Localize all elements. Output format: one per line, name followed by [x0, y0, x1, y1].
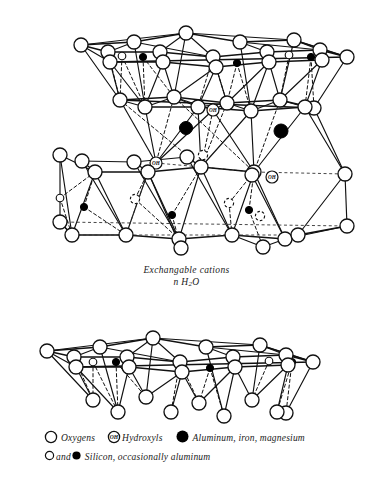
silicon-filled-circle-icon [71, 450, 82, 463]
upper-2to1-layer: OH OH OH [53, 26, 354, 255]
legend-label-silicon: Silicon, occasionally aluminum [85, 452, 211, 462]
hydroxyl-label: OH [209, 107, 218, 113]
legend-row: Oxygens OH Hydroxyls Aluminum, iron, mag… [44, 428, 373, 447]
hydroxyl-label: OH [268, 174, 277, 180]
hydroxyl-label: OH [152, 160, 161, 166]
oxygen-atoms-lower [40, 331, 320, 423]
interlayer-water-label: n H2O [0, 276, 373, 290]
hydroxyl-marker: OH [266, 171, 278, 183]
hydroxyl-icon-text: OH [110, 434, 119, 440]
legend-label-oxygens: Oxygens [61, 433, 95, 443]
hydroxyl-circle-icon: OH [107, 430, 121, 446]
interlayer-cations-label: Exchangable cations [0, 264, 373, 276]
figure-canvas: .ln{stroke:#111;stroke-width:1.15;fill:n… [0, 0, 373, 480]
lower-tetrahedral-sheet [40, 331, 320, 423]
water-suffix: O [192, 277, 199, 287]
metal-circle-icon [175, 429, 190, 446]
legend-label-metals: Aluminum, iron, magnesium [193, 433, 305, 443]
silicon-open-circle-icon [44, 450, 55, 463]
legend: Oxygens OH Hydroxyls Aluminum, iron, mag… [44, 428, 373, 466]
oxygen-circle-icon [44, 430, 58, 446]
legend-label-hydroxyls: Hydroxyls [122, 433, 163, 443]
hydroxyl-marker: OH [207, 104, 219, 116]
legend-row: and Silicon, occasionally aluminum [44, 447, 373, 466]
legend-label-and: and [56, 452, 71, 462]
water-prefix: n H [173, 277, 188, 287]
crystal-lattice-drawing: .ln{stroke:#111;stroke-width:1.15;fill:n… [0, 0, 373, 480]
